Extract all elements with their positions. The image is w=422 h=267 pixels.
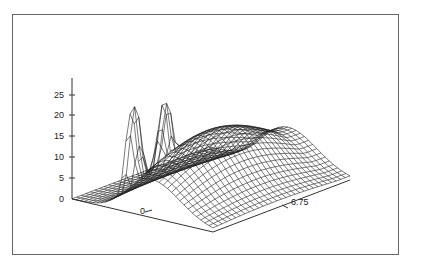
z-tick-0: 0 bbox=[59, 194, 64, 204]
z-tick-5: 5 bbox=[59, 173, 64, 183]
z-tick-15: 15 bbox=[54, 131, 64, 141]
x-tick-0: 0 bbox=[140, 206, 145, 216]
y-tick-6.75: 6.75 bbox=[291, 197, 309, 207]
surface-plot: 25 20 15 10 5 0 0 6.75 bbox=[0, 0, 422, 267]
z-tick-20: 20 bbox=[54, 110, 64, 120]
z-tick-25: 25 bbox=[54, 90, 64, 100]
z-tick-10: 10 bbox=[54, 152, 64, 162]
